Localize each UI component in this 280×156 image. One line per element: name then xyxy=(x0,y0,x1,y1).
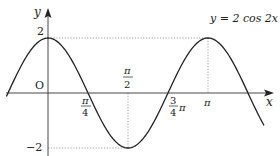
svg-text:4: 4 xyxy=(82,107,88,118)
tick-pi-over-2: π 2 xyxy=(123,65,133,90)
equation-text: y = 2 cos 2x xyxy=(209,12,279,25)
svg-text:3: 3 xyxy=(170,95,176,106)
svg-text:2: 2 xyxy=(124,79,130,90)
tick-pi-over-4: π 4 xyxy=(81,95,91,118)
y-max-label: 2 xyxy=(37,25,44,38)
tick-pi: π xyxy=(203,97,211,108)
svg-text:π: π xyxy=(178,102,186,113)
x-axis-label: x xyxy=(266,95,273,109)
svg-text:4: 4 xyxy=(170,107,176,118)
cosine-graph: y x O 2 −2 y = 2 cos 2x π 4 π 2 3 4 π π xyxy=(0,0,280,156)
y-min-label: −2 xyxy=(26,141,42,154)
axes xyxy=(6,12,270,156)
equation-label: y = 2 cos 2x xyxy=(209,12,279,25)
svg-text:π: π xyxy=(81,95,89,106)
origin-label: O xyxy=(35,79,44,92)
tick-three-quarter-pi: 3 4 π xyxy=(169,95,186,118)
y-axis-label: y xyxy=(33,5,41,19)
svg-text:π: π xyxy=(123,65,131,76)
